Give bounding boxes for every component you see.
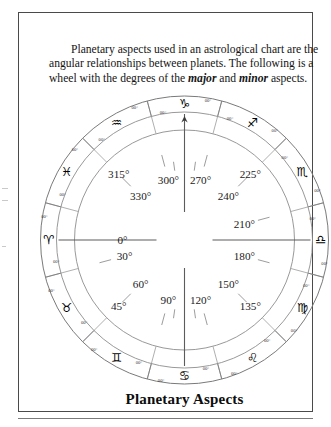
- scan-artifact: [2, 200, 8, 201]
- sign-band-tick: [218, 101, 222, 116]
- sign-band-tick: [147, 101, 151, 116]
- sector-degree-label: 225°: [240, 168, 261, 180]
- sector-degree-label: 315°: [108, 168, 129, 180]
- aspect-degree-label: 150°: [218, 278, 239, 290]
- sign-band-tick: [275, 331, 286, 342]
- aspect-degree-label: 30°: [117, 250, 133, 262]
- aspect-wheel: ♈♉♊♋♌♍♎♏♐♑♒♓ 00°00°00°00°00°00°00°00°00°…: [37, 91, 331, 389]
- zodiac-glyph-aries: ♈: [43, 232, 54, 247]
- sign-degree-marker: 00°: [53, 259, 60, 264]
- degree-connector: [258, 217, 270, 220]
- aspect-degree-label: 60°: [133, 278, 149, 290]
- zodiac-glyph-pisces: ♓: [61, 164, 72, 179]
- zodiac-glyph-taurus: ♉: [61, 300, 72, 315]
- aspect-degree-label: 0°: [117, 234, 127, 246]
- zodiac-glyph-gemini: ♊: [111, 350, 122, 365]
- figure-caption: Planetary Aspects: [37, 391, 331, 408]
- degree-connector: [204, 313, 207, 325]
- sign-degree-marker: 00°: [81, 320, 88, 325]
- scan-artifact: [2, 188, 8, 189]
- degree-connector: [162, 155, 165, 167]
- degree-connector: [258, 260, 270, 263]
- aspect-degree-label: 90°: [161, 294, 177, 306]
- intro-joiner: and: [216, 72, 239, 85]
- sign-degree-marker: 00°: [272, 128, 279, 133]
- sign-degree-marker: 00°: [303, 283, 310, 288]
- sign-degree-marker: 00°: [41, 214, 48, 219]
- sign-degree-marker: 00°: [72, 147, 79, 152]
- sign-band-tick: [147, 364, 151, 379]
- intro-paragraph: Planetary aspects used in an astrologica…: [49, 43, 321, 87]
- sign-degree-marker: 00°: [264, 338, 271, 343]
- intro-text-part2: aspects.: [268, 72, 307, 85]
- degree-connector: [99, 260, 111, 263]
- degree-connector: [194, 162, 195, 171]
- zodiac-glyph-aquarius: ♒: [111, 115, 122, 130]
- zodiac-glyph-scorpio: ♏: [297, 164, 308, 179]
- sign-band-tick: [218, 364, 222, 379]
- sign-band-tick: [45, 203, 60, 207]
- aspect-degree-label: 300°: [158, 174, 179, 186]
- sign-degree-marker: 00°: [203, 366, 210, 371]
- sign-band-tick: [83, 138, 94, 149]
- sign-degree-marker: 00°: [91, 347, 98, 352]
- zodiac-glyph-capricorn: ♑: [179, 96, 190, 111]
- sign-degree-marker: 00°: [309, 216, 316, 221]
- sign-band-tick: [83, 331, 94, 342]
- sign-band-tick: [308, 273, 323, 277]
- aspect-wheel-svg: ♈♉♊♋♌♍♎♏♐♑♒♓ 00°00°00°00°00°00°00°00°00°…: [37, 91, 331, 389]
- sign-degree-marker: 00°: [231, 371, 238, 376]
- sign-band-tick: [308, 203, 323, 207]
- degree-connector: [194, 309, 195, 318]
- zodiac-glyph-leo: ♌: [247, 350, 258, 365]
- scan-artifact: [2, 246, 6, 247]
- zodiac-glyph-virgo: ♍: [297, 300, 308, 315]
- aspect-degree-label: 120°: [190, 294, 211, 306]
- page-canvas: Planetary aspects used in an astrologica…: [0, 0, 331, 427]
- zodiac-glyph-sagittarius: ♐: [247, 115, 258, 130]
- aspect-degree-label: 330°: [130, 190, 151, 202]
- sign-degree-marker: 00°: [60, 192, 67, 197]
- sign-degree-marker: 00°: [205, 98, 212, 103]
- sign-degree-marker: 00°: [227, 116, 234, 121]
- aspect-degree-label: 210°: [234, 218, 255, 230]
- sign-degree-marker: 00°: [48, 288, 55, 293]
- sign-degree-marker: 00°: [136, 360, 143, 365]
- aspect-degree-label: 240°: [218, 190, 239, 202]
- emphasis-major: major: [188, 72, 216, 85]
- sign-degree-marker: 00°: [132, 105, 139, 110]
- degree-connector: [204, 155, 207, 167]
- aspect-degree-label: 270°: [190, 174, 211, 186]
- degree-connector: [162, 313, 165, 325]
- sign-degree-marker: 00°: [321, 261, 328, 266]
- degree-connector: [174, 162, 175, 171]
- sign-degree-marker: 00°: [160, 110, 167, 115]
- sector-degree-label: 45°: [111, 300, 127, 312]
- sector-degree-label: 135°: [240, 300, 261, 312]
- aspect-degree-label: 180°: [234, 250, 255, 262]
- figure-frame: Planetary aspects used in an astrologica…: [18, 12, 313, 412]
- bottom-rule: [18, 418, 313, 419]
- sign-degree-marker: 00°: [99, 137, 106, 142]
- emphasis-minor: minor: [239, 72, 268, 85]
- sign-band-tick: [45, 273, 60, 277]
- sign-band-tick: [275, 138, 286, 149]
- zodiac-glyph-cancer: ♋: [179, 368, 190, 383]
- zodiac-glyph-libra: ♎: [315, 232, 326, 247]
- sign-degree-marker: 00°: [314, 188, 321, 193]
- sign-degree-marker: 00°: [282, 155, 289, 160]
- sign-degree-marker: 00°: [158, 378, 165, 383]
- sign-degree-marker: 00°: [291, 328, 298, 333]
- degree-connector: [174, 309, 175, 318]
